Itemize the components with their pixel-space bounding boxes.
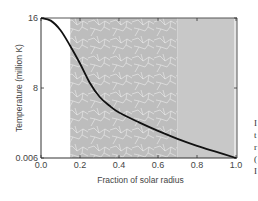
x-axis-title: Fraction of solar radius <box>97 175 183 185</box>
x-tick-label: 0.2 <box>74 160 87 170</box>
y-tick-label: 8 <box>33 83 38 93</box>
radiative-zone-texture <box>70 18 177 158</box>
x-tick-label: 0.4 <box>113 160 126 170</box>
x-tick-label: 1.0 <box>230 160 243 170</box>
side-text-fragment: I <box>254 118 257 128</box>
convective-zone-band <box>178 18 237 158</box>
y-tick-label: 0.006 <box>15 153 38 163</box>
y-axis-title: Temperature (million K) <box>14 44 24 132</box>
x-tick-label: 0.6 <box>152 160 165 170</box>
side-text-fragment: ( <box>254 154 257 164</box>
side-text-fragment: t <box>254 130 257 140</box>
side-text-fragment: I <box>254 166 257 176</box>
temperature-chart: 0.00.20.40.60.81.00.006816Fraction of so… <box>0 0 258 201</box>
x-tick-label: 0.8 <box>191 160 204 170</box>
y-tick-label: 16 <box>28 13 38 23</box>
side-text-fragment: r <box>254 142 257 152</box>
